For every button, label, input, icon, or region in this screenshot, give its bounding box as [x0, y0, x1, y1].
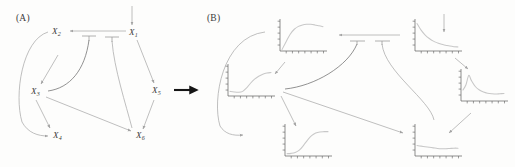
plot-curve: [230, 73, 271, 93]
plot-x2: [278, 19, 327, 53]
figure-root: (A) (B): [0, 0, 515, 167]
plot-curve: [463, 75, 504, 94]
plot-curve: [287, 132, 328, 154]
plot-x1: [413, 19, 462, 53]
plot-curve: [417, 146, 458, 149]
panel-b-plot-layer: [0, 0, 515, 167]
plot-curve: [417, 23, 458, 46]
plot-x5: [459, 69, 508, 103]
plot-x3: [226, 64, 275, 98]
plot-x4: [283, 124, 332, 158]
plot-x6: [413, 124, 462, 158]
plot-curve: [282, 24, 323, 49]
